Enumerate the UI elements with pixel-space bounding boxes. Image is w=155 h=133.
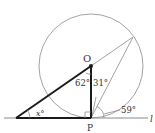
angle-arc-x <box>28 110 31 118</box>
label-angle-31: 31° <box>93 78 108 88</box>
angle-pointer-31 <box>92 97 96 116</box>
label-P: P <box>87 123 93 133</box>
label-O: O <box>83 53 91 64</box>
geometry-diagram: O P l x° 62° 31° 59° <box>0 0 155 133</box>
label-angle-62: 62° <box>75 78 90 88</box>
label-angle-x: x° <box>36 109 45 118</box>
segment-OQ <box>91 37 133 66</box>
label-angle-59: 59° <box>121 105 136 115</box>
label-l: l <box>150 114 153 124</box>
center-point-O <box>89 64 93 68</box>
segment-AO <box>16 66 91 118</box>
